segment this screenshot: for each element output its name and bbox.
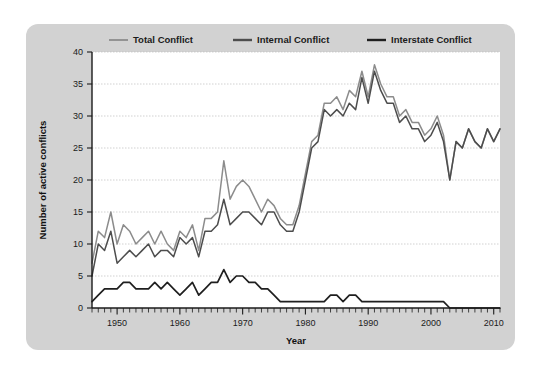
y-tick-label-20: 20 [73, 175, 83, 185]
x-tick-label-2010: 2010 [484, 318, 504, 328]
x-tick-label-2000: 2000 [421, 318, 441, 328]
y-tick-label-5: 5 [78, 271, 83, 281]
y-tick-label-15: 15 [73, 207, 83, 217]
x-tick-label-1980: 1980 [295, 318, 315, 328]
y-tick-label-35: 35 [73, 79, 83, 89]
y-tick-label-10: 10 [73, 239, 83, 249]
legend-label-interstate-conflict: Interstate Conflict [391, 34, 473, 45]
y-tick-label-40: 40 [73, 47, 83, 57]
x-tick-label-1960: 1960 [170, 318, 190, 328]
y-axis-title: Number of active conflicts [37, 121, 48, 240]
x-tick-label-1990: 1990 [358, 318, 378, 328]
chart-legend: Total ConflictInternal ConflictInterstat… [109, 34, 473, 45]
x-tick-label-1970: 1970 [233, 318, 253, 328]
y-axis: 0510152025303540 [73, 47, 92, 313]
legend-label-total-conflict: Total Conflict [133, 34, 194, 45]
y-tick-label-30: 30 [73, 111, 83, 121]
x-axis-title: Year [286, 335, 306, 346]
y-tick-label-0: 0 [78, 303, 83, 313]
y-tick-label-25: 25 [73, 143, 83, 153]
x-tick-label-1950: 1950 [107, 318, 127, 328]
legend-label-internal-conflict: Internal Conflict [257, 34, 330, 45]
conflict-line-chart: 1950196019701980199020002010 05101520253… [0, 0, 541, 388]
chart-stage: 1950196019701980199020002010 05101520253… [0, 0, 541, 388]
x-axis: 1950196019701980199020002010 [92, 308, 504, 328]
